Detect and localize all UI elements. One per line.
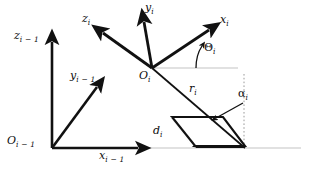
label-origin-current: Oi bbox=[139, 70, 151, 81]
alpha-angle-arrow bbox=[216, 103, 243, 118]
label-alpha-angle: αi bbox=[238, 88, 248, 99]
theta-angle-arrow bbox=[196, 46, 202, 68]
dh-parameter-diagram: zi − 1 Oi − 1 xi − 1 yi − 1 zi yi xi Oi … bbox=[0, 0, 316, 173]
label-y-current: yi bbox=[145, 2, 154, 13]
y-axis-current bbox=[144, 22, 152, 68]
diagram-canvas bbox=[0, 0, 316, 173]
y-axis-previous bbox=[52, 87, 97, 148]
label-z-previous: zi − 1 bbox=[14, 30, 39, 41]
label-link-offset-d: di bbox=[153, 125, 163, 136]
label-y-previous: yi − 1 bbox=[70, 70, 95, 81]
label-theta-angle: Θi bbox=[204, 42, 216, 53]
common-normal-line bbox=[152, 68, 245, 148]
label-x-current: xi bbox=[220, 14, 229, 25]
label-z-current: zi bbox=[82, 13, 90, 24]
label-origin-previous: Oi − 1 bbox=[7, 135, 35, 146]
parallelogram-left-edge bbox=[172, 117, 196, 147]
label-link-length-r: ri bbox=[189, 83, 197, 94]
label-x-previous: xi − 1 bbox=[99, 150, 124, 161]
z-axis-current bbox=[103, 33, 152, 68]
